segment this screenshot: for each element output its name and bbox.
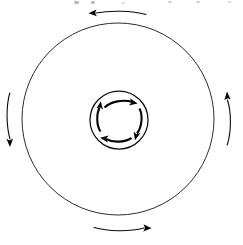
outer-arrow-bottom xyxy=(94,224,152,231)
figure-root xyxy=(0,0,243,245)
outer-arrow-right xyxy=(224,92,230,146)
outer-arrow-left-head xyxy=(6,139,13,147)
outer-arrow-left xyxy=(6,93,13,147)
inner-arrow-bottom xyxy=(100,135,132,142)
outer-circle xyxy=(22,23,214,215)
circles-diagram xyxy=(0,0,243,245)
inner-arrow-right xyxy=(134,109,142,141)
inner-arrow-left xyxy=(97,101,104,131)
outer-arrow-right-head xyxy=(224,92,230,101)
inner-circle xyxy=(90,91,148,149)
outer-arrow-top xyxy=(89,10,147,17)
inner-arrow-top xyxy=(105,98,138,107)
